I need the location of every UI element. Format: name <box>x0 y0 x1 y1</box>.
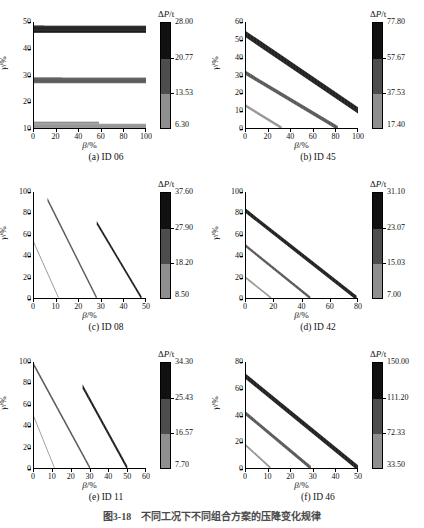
y-tick <box>28 213 31 214</box>
colorbar-tick-label: 37.60 <box>175 188 193 196</box>
colorbar-band <box>161 434 170 469</box>
plot-area <box>245 22 358 129</box>
colorbar-tick-label: 7.00 <box>387 291 401 299</box>
data-band <box>246 277 271 298</box>
y-tick <box>240 22 243 23</box>
y-tick <box>240 362 243 363</box>
y-tick <box>240 442 243 443</box>
colorbar-tick-label: 57.67 <box>387 54 405 62</box>
y-tick-label: 20 <box>3 274 31 282</box>
colorbar-band <box>373 363 382 399</box>
colorbar-tick <box>383 433 386 434</box>
colorbar-title: ΔP/t <box>158 179 174 189</box>
y-tick-labels: 020406080 <box>212 362 243 469</box>
colorbar-band <box>161 229 170 265</box>
colorbar-tick-label: 18.20 <box>175 259 193 267</box>
y-tick-label: 20 <box>215 274 243 282</box>
y-tick-label: 50 <box>3 18 31 26</box>
y-tick-label: 0 <box>215 465 243 473</box>
colorbar-tick-label: 17.40 <box>387 121 405 129</box>
y-tick <box>28 192 31 193</box>
colorbar-gradient <box>160 22 171 129</box>
y-tick-label: 60 <box>3 231 31 239</box>
data-band-step <box>34 78 62 80</box>
y-tick <box>28 448 31 449</box>
y-tick <box>240 469 243 470</box>
colorbar-tick <box>383 228 386 229</box>
colorbar-tick-label: 72.33 <box>387 429 405 437</box>
panel-caption: (d) ID 42 <box>212 322 424 332</box>
plot-svg <box>34 362 146 468</box>
y-tick <box>28 129 31 130</box>
y-tick <box>240 256 243 257</box>
colorbar-title: ΔP/t <box>158 9 174 19</box>
y-tick-labels: 020406080100 <box>0 192 31 299</box>
y-tick-label: 10 <box>3 125 31 133</box>
colorbar-band <box>373 399 382 435</box>
y-tick-label: 80 <box>3 209 31 217</box>
colorbar-band <box>373 94 382 129</box>
y-tick-label: 0 <box>215 295 243 303</box>
y-tick-labels: 020406080100 <box>0 362 31 469</box>
y-tick <box>28 235 31 236</box>
y-tick-labels: 0102030405060 <box>212 22 243 129</box>
data-band <box>246 444 271 468</box>
plot-svg <box>34 192 146 298</box>
colorbar-tick <box>171 93 174 94</box>
y-tick-label: 40 <box>3 422 31 430</box>
figure-caption: 图3-18 不同工况下不同组合方案的压降变化规律 <box>0 508 424 528</box>
y-tick-label: 40 <box>215 412 243 420</box>
y-tick <box>240 213 243 214</box>
y-tick-label: 20 <box>3 98 31 106</box>
plot-area <box>33 22 146 129</box>
plot-svg <box>246 362 358 468</box>
colorbar-tick-label: 6.30 <box>175 121 189 129</box>
colorbar-gradient <box>372 362 383 469</box>
colorbar-band <box>161 23 170 59</box>
colorbar-tick-label: 15.03 <box>387 259 405 267</box>
y-tick <box>240 93 243 94</box>
y-tick-label: 100 <box>3 358 31 366</box>
colorbar-tick-label: 23.07 <box>387 224 405 232</box>
colorbar-gradient <box>160 192 171 299</box>
y-tick-label: 20 <box>215 438 243 446</box>
y-tick <box>28 76 31 77</box>
colorbar-tick <box>383 58 386 59</box>
y-tick-label: 0 <box>3 295 31 303</box>
colorbar-band <box>161 94 170 129</box>
y-tick <box>28 362 31 363</box>
colorbar-ticks: 8.5018.2027.9037.60 <box>171 192 210 299</box>
colorbar: ΔP/t 7.0015.0323.0731.10 <box>372 192 422 302</box>
y-tick <box>240 111 243 112</box>
colorbar-gradient <box>160 362 171 469</box>
y-tick <box>28 469 31 470</box>
colorbar: ΔP/t 8.5018.2027.9037.60 <box>160 192 210 302</box>
panel-caption: (f) ID 46 <box>212 492 424 502</box>
x-axis-title: β/% <box>245 480 358 490</box>
y-tick <box>28 256 31 257</box>
colorbar-ticks: 17.4037.5357.6777.80 <box>383 22 422 129</box>
data-band <box>34 242 59 298</box>
y-tick <box>28 299 31 300</box>
y-tick-label: 40 <box>3 45 31 53</box>
y-tick <box>28 405 31 406</box>
colorbar-band <box>161 193 170 229</box>
y-tick <box>28 102 31 103</box>
colorbar-band <box>161 363 170 399</box>
colorbar-tick-label: 37.53 <box>387 89 405 97</box>
colorbar-ticks: 33.5072.33111.20150.00 <box>383 362 422 469</box>
x-axis-title: β/% <box>245 310 358 320</box>
plot-svg <box>246 22 358 128</box>
colorbar-title: ΔP/t <box>370 349 386 359</box>
plot-area <box>245 362 358 469</box>
y-tick-label: 10 <box>215 107 243 115</box>
figure-sheet: γ/% 1020304050 020406080100 β/% ΔP/t 6.3… <box>0 0 424 528</box>
colorbar-band <box>373 229 382 265</box>
colorbar-title: ΔP/t <box>370 179 386 189</box>
y-tick <box>240 235 243 236</box>
plot-svg <box>246 192 358 298</box>
y-tick-label: 0 <box>3 465 31 473</box>
panel-f: γ/% 020406080 01020304050 β/% ΔP/t 33.50… <box>212 340 424 505</box>
colorbar-band <box>373 264 382 299</box>
y-tick-labels: 1020304050 <box>0 22 31 129</box>
